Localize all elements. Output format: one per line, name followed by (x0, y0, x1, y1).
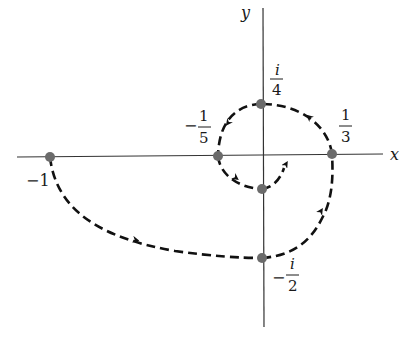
point-i-quarter (256, 99, 266, 109)
point-minus-fifth (213, 151, 223, 161)
svg-text:1: 1 (199, 107, 209, 125)
svg-text:2: 2 (288, 277, 298, 295)
point-minus-i-half (257, 253, 267, 263)
svg-text:−: − (184, 116, 197, 135)
label-minus-fifth: − 1 5 (184, 107, 211, 147)
label-minus-i-half: − i 2 (272, 255, 299, 295)
y-axis-label: y (240, 3, 251, 22)
svg-text:4: 4 (272, 81, 282, 99)
svg-text:3: 3 (341, 128, 351, 146)
point-inner (257, 184, 267, 194)
direction-arrows (118, 115, 321, 240)
svg-text:i: i (275, 61, 280, 79)
x-axis-label: x (390, 145, 399, 164)
label-one-third: 1 3 (339, 106, 352, 146)
label-i-quarter: i 4 (270, 61, 283, 99)
spiral-diagram: x y −1 − 1 5 (0, 0, 419, 345)
svg-text:5: 5 (199, 129, 209, 147)
svg-text:−: − (272, 268, 285, 287)
svg-text:1: 1 (341, 106, 351, 124)
point-one-third (327, 149, 337, 159)
y-axis (263, 8, 264, 327)
svg-text:i: i (290, 255, 295, 273)
point-minus-one (45, 152, 55, 162)
label-minus-one: −1 (26, 171, 50, 190)
